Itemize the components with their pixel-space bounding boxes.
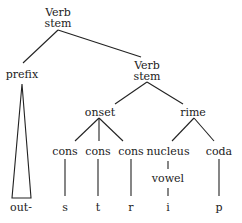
node-cons-2: cons	[85, 145, 111, 158]
node-onset: onset	[85, 106, 116, 119]
leaf-r: r	[128, 201, 134, 214]
node-prefix: prefix	[6, 68, 39, 81]
edge-onset-cons1	[75, 118, 99, 141]
prefix-triangle	[12, 84, 31, 198]
leaf-i: i	[166, 201, 170, 214]
node-cons-1: cons	[52, 145, 78, 158]
leaf-out: out-	[10, 201, 32, 214]
node-cons-3: cons	[118, 145, 144, 158]
edge-root-prefix	[23, 30, 58, 63]
edge-onset-cons3	[99, 118, 123, 141]
tree-nodes: Verb stem prefix Verb stem onset rime co…	[6, 6, 233, 185]
node-rime: rime	[180, 106, 206, 119]
tree-leaves: out- s t r i p	[10, 201, 222, 214]
edge-rime-coda	[194, 118, 214, 141]
node-nucleus: nucleus	[146, 145, 189, 158]
syntax-tree-diagram: Verb stem prefix Verb stem onset rime co…	[0, 0, 242, 223]
node-vowel: vowel	[151, 172, 185, 185]
node-root-line2: stem	[44, 17, 72, 30]
edge-stem-rime	[147, 82, 183, 104]
leaf-t: t	[96, 201, 101, 214]
leaf-p: p	[215, 201, 222, 214]
leaf-s: s	[62, 201, 68, 214]
edge-stem-onset	[115, 82, 147, 104]
edge-root-stem	[58, 30, 141, 57]
node-coda: coda	[206, 145, 233, 158]
node-stem-line2: stem	[133, 70, 161, 83]
edge-rime-nucleus	[172, 118, 194, 141]
